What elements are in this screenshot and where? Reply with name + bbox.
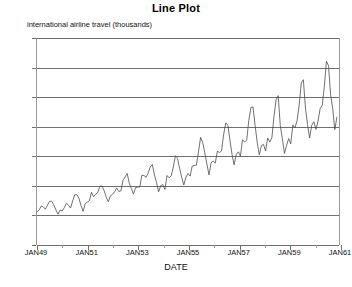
y-tick-mark [32, 68, 36, 69]
x-tick-mark-minor [164, 245, 165, 248]
y-tick-mark [32, 127, 36, 128]
y-tick-mark [32, 156, 36, 157]
x-tick-label: JAN55 [166, 248, 210, 257]
plot-area: 0100200300400500600700 [36, 38, 340, 245]
y-tick-mark [32, 97, 36, 98]
y-tick-mark [32, 215, 36, 216]
x-tick-mark-minor [214, 245, 215, 248]
series-polyline [37, 61, 337, 214]
x-axis-label: DATE [0, 262, 352, 272]
y-tick-mark [32, 38, 36, 39]
x-tick-mark-minor [316, 245, 317, 248]
chart-title: Line Plot [0, 2, 352, 14]
y-tick-mark [32, 245, 36, 246]
x-tick-label: JAN49 [14, 248, 58, 257]
x-tick-mark-minor [62, 245, 63, 248]
x-tick-mark-minor [265, 245, 266, 248]
data-series-line [37, 38, 339, 245]
x-tick-label: JAN61 [318, 248, 352, 257]
x-tick-label: JAN51 [65, 248, 109, 257]
x-tick-mark-minor [113, 245, 114, 248]
line-chart: Line Plot international airline travel (… [0, 0, 352, 287]
y-tick-mark [32, 186, 36, 187]
x-tick-label: JAN59 [267, 248, 311, 257]
gridline [37, 245, 339, 246]
x-tick-label: JAN57 [217, 248, 261, 257]
x-tick-label: JAN53 [115, 248, 159, 257]
y-axis-label: international airline travel (thousands) [27, 20, 152, 29]
